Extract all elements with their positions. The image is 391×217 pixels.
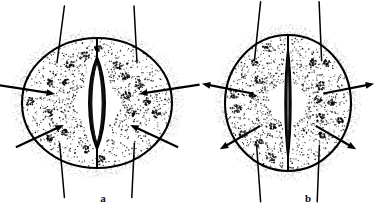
figure-background bbox=[0, 0, 391, 217]
pore-aperture bbox=[287, 55, 289, 151]
panel-a-label: a bbox=[93, 192, 113, 204]
panel-b-label: b bbox=[298, 192, 318, 204]
stoma-figure bbox=[0, 0, 391, 217]
stoma-figure-svg bbox=[0, 0, 391, 217]
stomatal-pore bbox=[285, 47, 291, 159]
